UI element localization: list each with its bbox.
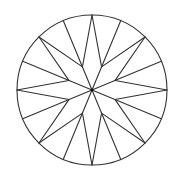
center-point — [91, 89, 94, 92]
compass-star-figure — [0, 0, 178, 177]
compass-star-drawing — [0, 0, 178, 177]
